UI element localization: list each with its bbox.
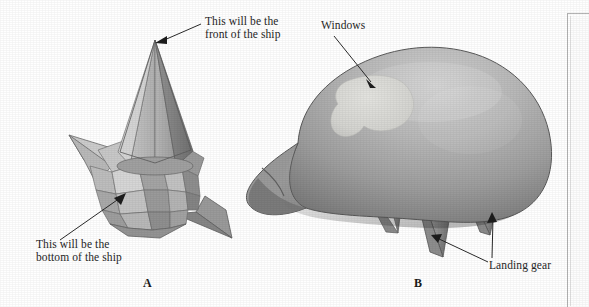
faceted-body (90, 139, 204, 238)
label-bottom-of-ship: This will be the bottom of the ship (36, 238, 122, 263)
label-front-line-1: This will be the (205, 15, 280, 28)
windows-patch (331, 75, 414, 136)
star-arms (69, 135, 232, 238)
ship-hull (246, 47, 551, 228)
leader-landing-gear (431, 212, 497, 262)
label-landing-gear: Landing gear (489, 259, 551, 272)
label-front-line-2: front of the ship (205, 28, 280, 41)
label-windows: Windows (321, 19, 365, 32)
label-front-of-ship: This will be the front of the ship (205, 15, 280, 40)
panel-caption-a: A (143, 276, 152, 291)
page-edge-inner (570, 16, 589, 306)
leader-front-of-ship (155, 24, 201, 44)
star-ship-model-a (60, 24, 232, 240)
panel-caption-b: B (414, 276, 422, 291)
nose-cone (117, 40, 193, 175)
leader-bottom-of-ship (60, 193, 126, 240)
label-bottom-line-2: bottom of the ship (36, 251, 122, 264)
page-edge-panel (567, 13, 589, 307)
leader-windows (334, 36, 376, 88)
figure-container: This will be the front of the ship This … (0, 0, 589, 307)
smooth-ship-model-b (246, 36, 551, 262)
landing-gear-legs (372, 198, 498, 257)
label-bottom-line-1: This will be the (36, 238, 122, 251)
